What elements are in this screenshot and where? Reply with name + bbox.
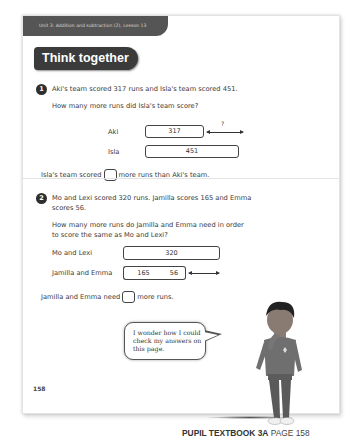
question-1-answer-sentence: Isla's team scoredmore runs than Aki's t… — [41, 169, 209, 181]
bar-emma: 56 — [163, 266, 186, 280]
question-1-statement: Aki's team scored 317 runs and Isla's te… — [52, 85, 238, 93]
bar-label-isla: Isla — [108, 148, 119, 156]
gap-arrow-icon — [189, 273, 219, 274]
question-2-answer-sentence: Jamilla and Emma needmore runs. — [41, 291, 174, 303]
answer-2-before: Jamilla and Emma need — [41, 293, 120, 301]
bar-mo-lexi: 320 — [123, 246, 220, 260]
question-2-number: 2 — [36, 193, 47, 204]
page-number: 158 — [33, 385, 46, 392]
bar-aki: 317 — [145, 125, 204, 138]
question-1-prompt: How many more runs did Isla's team score… — [52, 102, 198, 110]
character-shadow — [205, 416, 295, 419]
footer-book-title: PUPIL TEXTBOOK 3A — [182, 428, 268, 438]
speech-line-3: this page. — [133, 345, 205, 353]
bar-label-jamilla-emma: Jamilla and Emma — [52, 269, 112, 277]
answer-2-after: more runs. — [137, 293, 173, 301]
difference-label: ? — [221, 120, 224, 127]
question-2-statement-line1: Mo and Lexi scored 320 runs. Jamilla sco… — [52, 194, 251, 202]
bar-label-aki: Aki — [108, 128, 118, 136]
question-1-number: 1 — [36, 84, 47, 95]
question-2-prompt-line2: to score the same as Mo and Lexi? — [52, 231, 168, 239]
speech-line-2: check my answers on — [133, 337, 205, 345]
boy-character-illustration — [250, 298, 310, 428]
question-2-prompt-line1: How many more runs do Jamilla and Emma n… — [52, 221, 244, 229]
question-2-statement-line2: scores 56. — [52, 204, 86, 212]
textbook-page: Unit 3: Addition and subtraction (2), Le… — [22, 15, 340, 414]
answer-2-box[interactable] — [122, 291, 135, 303]
answer-1-box[interactable] — [104, 169, 117, 181]
bar-label-mo-lexi: Mo and Lexi — [52, 249, 92, 257]
unit-banner: Unit 3: Addition and subtraction (2), Le… — [23, 16, 168, 36]
page-footer: PUPIL TEXTBOOK 3A PAGE 158 — [182, 428, 310, 438]
section-title: Think together — [34, 47, 138, 70]
speech-bubble-tail-inner — [204, 332, 218, 341]
bar-isla: 451 — [145, 145, 239, 158]
speech-bubble: I wonder how I could check my answers on… — [124, 322, 206, 360]
section-divider — [23, 178, 339, 179]
difference-arrow-icon — [207, 132, 243, 133]
bar-jamilla: 165 — [123, 266, 164, 280]
speech-line-1: I wonder how I could — [133, 329, 205, 337]
footer-page: PAGE 158 — [271, 428, 310, 438]
